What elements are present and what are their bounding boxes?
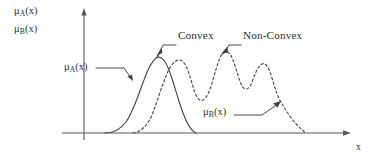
y-axis: [81, 8, 86, 140]
y-axis-label-mu-a-tail: (x): [25, 5, 37, 16]
callout-label-non-convex: Non-Convex: [243, 30, 302, 41]
curve-mu-b-dashed: [133, 52, 306, 133]
mu-a-leader-path: [96, 68, 131, 78]
callout-label-convex: Convex: [178, 30, 214, 41]
membership-function-plot: [0, 0, 375, 166]
mu-b-leader-line: [234, 101, 281, 115]
x-axis-label: x: [356, 142, 361, 152]
mu-a-leader-line: [96, 68, 133, 81]
y-axis-arrowhead: [81, 8, 86, 16]
curve-label-mu-b: μB(x): [203, 107, 226, 118]
mu-b-leader-path: [234, 104, 278, 115]
convex-leader-arrowhead: [156, 48, 163, 58]
non-convex-leader-arrowhead: [221, 47, 228, 55]
curve-label-mu-a: μA(x): [64, 62, 88, 73]
y-axis-label-mu-b-tail: (x): [25, 23, 37, 34]
x-axis-arrowhead: [343, 130, 351, 135]
figure-container: μA(x) μB(x) μA(x) μB(x) Convex Non-Conve…: [0, 0, 375, 166]
curve-label-mu-b-tail: (x): [214, 106, 226, 117]
non-convex-leader-line: [221, 45, 241, 54]
mu-a-leader-arrowhead: [128, 75, 134, 82]
convex-leader-line: [156, 45, 176, 58]
y-axis-label-mu-a: μA(x): [14, 6, 38, 17]
y-axis-label-mu-b: μB(x): [14, 24, 37, 35]
curve-mu-a-solid: [105, 57, 196, 133]
curve-label-mu-a-tail: (x): [75, 61, 87, 72]
